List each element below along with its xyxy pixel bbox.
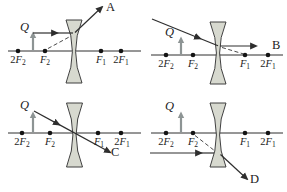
axis-label-F2: F2 <box>40 55 50 67</box>
axis-label-F1: F1 <box>96 55 106 67</box>
axis-label-F1: F1 <box>240 137 250 149</box>
object-label-Q: Q <box>20 99 29 112</box>
point-F1-dot <box>96 131 101 136</box>
diverging-lens <box>67 103 83 167</box>
axis-label-2F2: 2F2 <box>14 137 29 149</box>
object-label-Q: Q <box>20 21 29 34</box>
incident-ray-through-center <box>34 111 59 125</box>
point-2F2-dot <box>164 53 169 58</box>
object-arrowhead <box>30 112 36 119</box>
focal-construction-dashed-line <box>48 36 71 49</box>
point-F2-dot <box>43 49 48 54</box>
point-F2-dot <box>191 53 196 58</box>
axis-label-F1: F1 <box>94 137 104 149</box>
diverging-lens <box>210 22 226 84</box>
point-F1-dot <box>99 49 104 54</box>
ray-label-D: D <box>250 173 259 186</box>
point-2F2-dot <box>164 131 169 136</box>
object-label-Q: Q <box>165 100 174 113</box>
axis-label-F2: F2 <box>188 59 198 71</box>
axis-label-F2: F2 <box>45 137 55 149</box>
axis-label-2F2: 2F2 <box>10 55 25 67</box>
axis-label-2F1: 2F1 <box>113 55 128 67</box>
focal-construction-dashed-line <box>222 48 243 54</box>
axis-label-2F1: 2F1 <box>114 137 129 149</box>
panel-bottom-left <box>8 103 141 167</box>
point-2F1-dot <box>119 49 124 54</box>
axis-label-F1: F1 <box>240 59 250 71</box>
panel-top-left <box>8 7 141 83</box>
incident-ray <box>152 19 200 39</box>
point-2F1-dot <box>266 131 271 136</box>
axis-label-2F1: 2F1 <box>260 137 275 149</box>
ray-diagram-canvas <box>0 0 287 192</box>
object-arrowhead <box>178 112 184 119</box>
object-label-Q: Q <box>165 26 174 39</box>
point-F2-dot <box>191 131 196 136</box>
axis-label-2F2: 2F2 <box>158 59 173 71</box>
axis-label-F2: F2 <box>188 137 198 149</box>
point-2F2-dot <box>16 49 21 54</box>
point-2F1-dot <box>266 53 271 58</box>
point-F1-dot <box>243 131 248 136</box>
point-2F2-dot <box>20 131 25 136</box>
lens-ray-diagrams-figure: Q A 2F2 F2 F1 2F1 Q B 2F2 F2 F1 2F1 Q C … <box>0 0 287 192</box>
object-arrowhead <box>178 37 184 44</box>
ray-label-A: A <box>106 1 115 14</box>
ray-label-B: B <box>272 39 280 52</box>
axis-label-2F1: 2F1 <box>260 59 275 71</box>
axis-label-2F2: 2F2 <box>158 137 173 149</box>
point-2F1-dot <box>119 131 124 136</box>
point-F2-dot <box>48 131 53 136</box>
point-F1-dot <box>243 53 248 58</box>
